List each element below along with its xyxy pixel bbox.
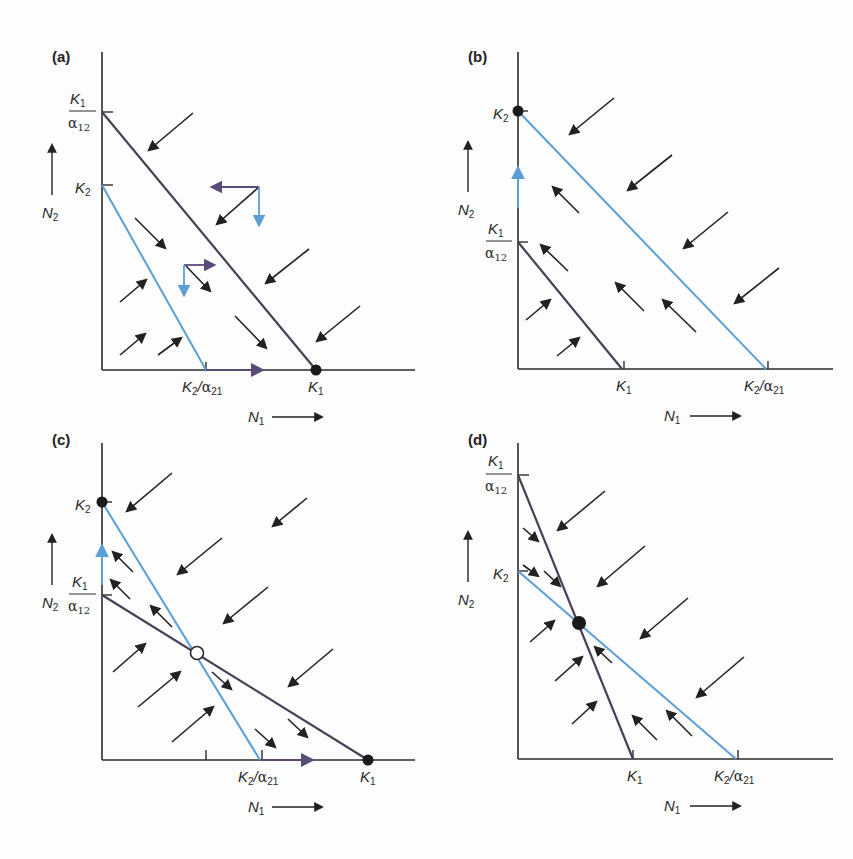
x-axis-label: N1 — [664, 797, 681, 816]
y-tick-k1-alpha12: K1 α12 — [68, 573, 96, 616]
species2-isocline — [518, 111, 766, 369]
species2-isocline — [102, 502, 260, 760]
y-axis-label: N2 — [42, 594, 59, 613]
svg-text:α12: α12 — [68, 598, 90, 616]
species2-isocline — [518, 571, 736, 759]
y-tick-k2: K2 — [75, 496, 91, 515]
panel-b: (b) K2 K1 α12 K1 K2/α21 — [458, 48, 833, 426]
species2-isocline — [102, 185, 206, 370]
panel-label-b: (b) — [468, 48, 487, 65]
x-tick-k2-alpha21: K2/α21 — [182, 378, 223, 397]
x-tick-k2-alpha21: K2/α21 — [744, 377, 785, 396]
stable-equilibrium-point — [363, 755, 374, 766]
panel-a: (a) — [42, 48, 415, 427]
y-tick-k2: K2 — [493, 565, 509, 584]
vector-arrows — [523, 491, 744, 740]
stable-equilibrium-point — [572, 616, 586, 630]
svg-text:K1: K1 — [488, 220, 504, 239]
y-tick-k1-alpha12: K1 α12 — [485, 452, 512, 496]
y-tick-k1-alpha12: K1 α12 — [68, 90, 96, 133]
x-axis-label: N1 — [248, 798, 265, 817]
svg-text:α12: α12 — [485, 245, 507, 263]
svg-text:K1: K1 — [488, 452, 504, 471]
svg-text:α12: α12 — [485, 478, 507, 496]
vector-arrows — [111, 473, 333, 747]
x-tick-k1: K1 — [360, 768, 376, 787]
y-tick-k2: K2 — [75, 179, 91, 198]
panel-c: (c) K2 K1 — [42, 431, 415, 817]
y-axis-label: N2 — [458, 591, 475, 610]
svg-text:α12: α12 — [68, 115, 90, 133]
stable-equilibrium-point — [513, 106, 524, 117]
stable-equilibrium-point — [311, 365, 322, 376]
vector-arrows — [120, 113, 360, 355]
stable-equilibrium-point — [97, 497, 108, 508]
panel-label-d: (d) — [468, 431, 487, 448]
x-tick-k2-alpha21: K2/α21 — [238, 768, 279, 787]
panel-label-a: (a) — [52, 48, 70, 65]
lotka-volterra-phase-planes: (a) — [0, 0, 853, 859]
vector-arrows — [526, 98, 779, 356]
y-tick-k2: K2 — [493, 105, 509, 124]
panel-d: (d) K1 α12 K2 K1 — [458, 431, 833, 816]
species1-isocline — [102, 595, 368, 760]
y-tick-k1-alpha12: K1 α12 — [485, 220, 512, 263]
x-tick-k1: K1 — [308, 378, 324, 397]
x-tick-k2-alpha21: K2/α21 — [714, 767, 755, 786]
x-axis-label: N1 — [248, 408, 265, 427]
unstable-equilibrium-point — [191, 647, 204, 660]
x-tick-k1: K1 — [627, 767, 643, 786]
svg-text:K1: K1 — [72, 573, 88, 592]
x-tick-k1: K1 — [616, 377, 632, 396]
svg-text:K1: K1 — [70, 90, 86, 109]
y-axis-label: N2 — [42, 204, 59, 223]
y-axis-label: N2 — [458, 201, 475, 220]
species1-isocline — [518, 242, 622, 369]
x-axis-label: N1 — [664, 407, 681, 426]
panel-label-c: (c) — [52, 431, 70, 448]
